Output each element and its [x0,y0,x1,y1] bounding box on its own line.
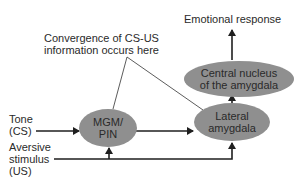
aversive-line-2: stimulus [9,153,51,165]
annotation-line-2: information occurs here [44,44,159,56]
annotation-label: Convergence of CS-US information occurs … [44,32,159,56]
aversive-line-3: (US) [9,165,51,177]
mgm-line-1: MGM/ [79,116,137,128]
lateral-line-1: Lateral [194,110,270,122]
tone-line-2: (CS) [9,125,33,137]
central-nucleus-label: Central nucleus of the amygdala [184,67,294,91]
annotation-pointer-mgm [113,57,127,109]
aversive-line-1: Aversive [9,141,51,153]
tone-cs-label: Tone (CS) [9,113,33,137]
aversive-us-label: Aversive stimulus (US) [9,141,51,177]
lateral-line-2: amygdala [194,122,270,134]
central-line-2: of the amygdala [184,79,294,91]
output-label: Emotional response [184,13,281,25]
mgm-line-2: PIN [79,128,137,140]
mgm-pin-label: MGM/ PIN [79,116,137,140]
tone-line-1: Tone [9,113,33,125]
lateral-amygdala-label: Lateral amygdala [194,110,270,134]
central-line-1: Central nucleus [184,67,294,79]
annotation-line-1: Convergence of CS-US [44,32,159,44]
aversive-stimulus-line [54,143,232,159]
